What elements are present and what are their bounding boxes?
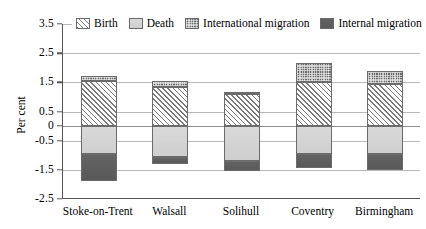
y-tick-label: -0.5 xyxy=(35,135,54,147)
x-tick-label: Coventry xyxy=(291,205,334,217)
segment-death xyxy=(152,126,188,157)
legend-label-birth: Birth xyxy=(94,17,118,29)
segment-death xyxy=(81,126,117,154)
x-tick-label: Birmingham xyxy=(355,205,413,217)
y-tick-label: 3.5 xyxy=(39,18,54,30)
segment-international-migration xyxy=(152,81,188,87)
segment-international-migration xyxy=(367,71,403,84)
bar-series-group xyxy=(63,24,420,198)
legend-label-death: Death xyxy=(147,17,174,29)
chart-container: Per cent 3.52.51.50.50-0.5-1.5-2.5 Stoke… xyxy=(0,0,426,229)
segment-birth xyxy=(224,94,260,126)
segment-international-migration xyxy=(224,92,260,94)
segment-death xyxy=(367,126,403,154)
legend-label-internal-migration: Internal migration xyxy=(338,17,421,29)
legend-swatch-internal-migration xyxy=(320,18,334,29)
bar-solihull[interactable] xyxy=(224,24,260,198)
y-tick-label: 1.5 xyxy=(39,77,54,89)
legend-swatch-death xyxy=(129,18,143,29)
y-tick-label: -2.5 xyxy=(35,193,54,205)
segment-internal-migration xyxy=(81,154,117,182)
segment-birth xyxy=(296,82,332,126)
bar-walsall[interactable] xyxy=(152,24,188,198)
segment-birth xyxy=(81,81,117,126)
legend-swatch-birth xyxy=(76,18,90,29)
legend-label-international-migration: International migration xyxy=(203,17,309,29)
x-tick-label: Walsall xyxy=(152,205,186,217)
segment-death xyxy=(296,126,332,154)
segment-internal-migration xyxy=(152,157,188,164)
segment-international-migration xyxy=(296,63,332,82)
chart-legend: Birth Death International migration Inte… xyxy=(72,13,426,33)
legend-item-death[interactable]: Death xyxy=(129,17,174,29)
segment-international-migration xyxy=(81,76,117,81)
segment-internal-migration xyxy=(224,161,260,171)
y-tick-label: 0.5 xyxy=(39,106,54,118)
segment-internal-migration xyxy=(367,154,403,170)
legend-item-international-migration[interactable]: International migration xyxy=(185,17,309,29)
bar-birmingham[interactable] xyxy=(367,24,403,198)
x-tick-label: Solihull xyxy=(223,205,259,217)
legend-item-birth[interactable]: Birth xyxy=(76,17,118,29)
segment-death xyxy=(224,126,260,161)
bar-coventry[interactable] xyxy=(296,24,332,198)
segment-birth xyxy=(152,87,188,126)
y-tick-label: 2.5 xyxy=(39,47,54,59)
bar-stoke-on-trent[interactable] xyxy=(81,24,117,198)
segment-internal-migration xyxy=(296,154,332,169)
y-tick-label: -1.5 xyxy=(35,164,54,176)
y-axis-labels: 3.52.51.50.50-0.5-1.5-2.5 xyxy=(0,0,62,229)
legend-item-internal-migration[interactable]: Internal migration xyxy=(320,17,421,29)
y-tick-label: 0 xyxy=(48,120,54,132)
segment-birth xyxy=(367,84,403,126)
x-tick-label: Stoke-on-Trent xyxy=(63,205,133,217)
plot-area xyxy=(62,24,420,199)
legend-swatch-international-migration xyxy=(185,18,199,29)
